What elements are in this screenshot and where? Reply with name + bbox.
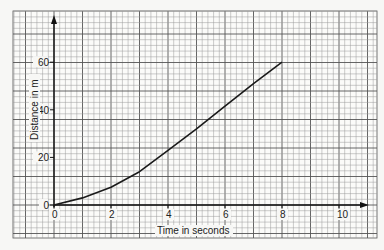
x-axis-title: Time in seconds: [155, 225, 233, 236]
x-tick-label: 6: [223, 209, 229, 220]
x-tick-label: 4: [166, 209, 172, 220]
y-axis-title: Distance in m: [29, 74, 40, 142]
y-axis-label: Distance in m: [29, 79, 40, 140]
x-tick-label: 0: [52, 209, 58, 220]
y-tick-label: 20: [38, 152, 50, 163]
distance-time-chart: 02468100204060 Time in seconds Distance …: [0, 0, 384, 250]
x-tick-label: 8: [280, 209, 286, 220]
graph-paper-grid: [13, 11, 377, 238]
y-tick-label: 60: [38, 57, 50, 68]
y-tick-label: 0: [43, 200, 49, 211]
x-tick-label: 10: [337, 209, 349, 220]
x-axis-label: Time in seconds: [157, 225, 229, 236]
x-tick-label: 2: [109, 209, 115, 220]
